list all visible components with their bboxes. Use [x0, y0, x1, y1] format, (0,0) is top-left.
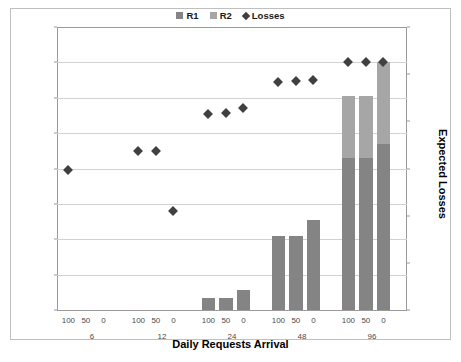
bar-segment-r1	[342, 158, 356, 310]
legend-item-losses: Losses	[243, 10, 285, 21]
bar-stack	[377, 62, 391, 310]
bar-segment-r1	[289, 236, 303, 310]
bar-stack	[342, 96, 356, 310]
legend-item-r2: R2	[210, 10, 232, 21]
x-axis-sub-label: 0	[301, 316, 325, 325]
bar-segment-r2	[342, 96, 356, 158]
y-axis-tick-mark-left	[54, 97, 57, 98]
bar-segment-r2	[359, 96, 373, 158]
legend-label-r1: R1	[186, 10, 198, 21]
y-axis-tick-mark-right	[407, 168, 410, 169]
x-axis-group-label: 48	[282, 332, 322, 341]
x-axis-sub-label: 0	[231, 316, 255, 325]
bar-stack	[237, 290, 251, 310]
y-axis-tick-mark-right	[407, 27, 410, 28]
bar-segment-r1	[307, 220, 321, 310]
y-axis-tick-mark-left	[54, 27, 57, 28]
y-axis-title-right: Expected Losses	[437, 129, 449, 219]
bar-segment-r1	[219, 298, 233, 310]
legend-label-losses: Losses	[252, 10, 285, 21]
y-axis-tick-mark-right	[407, 215, 410, 216]
bar-segment-r2	[377, 62, 391, 143]
y-axis-tick-mark-right	[407, 310, 410, 311]
y-axis-tick-mark-right	[407, 121, 410, 122]
bar-stack	[359, 96, 373, 310]
gridline	[57, 62, 407, 63]
x-axis-sub-label: 0	[91, 316, 115, 325]
x-axis-group-label: 24	[212, 332, 252, 341]
y-axis-tick-mark-left	[54, 274, 57, 275]
legend-diamond-icon	[242, 11, 250, 19]
bar-segment-r1	[359, 158, 373, 310]
gridline	[57, 27, 407, 28]
y-axis-tick-mark-left	[54, 133, 57, 134]
y-axis-tick-mark-left	[54, 239, 57, 240]
bar-segment-r1	[377, 144, 391, 310]
legend-swatch-r2	[210, 12, 217, 19]
y-axis-tick-mark-left	[54, 168, 57, 169]
bar-segment-r1	[237, 290, 251, 310]
legend-label-r2: R2	[220, 10, 232, 21]
legend-item-r1: R1	[176, 10, 198, 21]
y-axis-tick-mark-right	[407, 74, 410, 75]
bar-stack	[307, 220, 321, 310]
x-axis-sub-label: 0	[161, 316, 185, 325]
bar-segment-r1	[272, 236, 286, 310]
legend-swatch-r1	[176, 12, 183, 19]
y-axis-tick-mark-right	[407, 262, 410, 263]
chart-container: R1 R2 Losses Refused Requests per Month …	[0, 0, 461, 362]
bar-segment-r1	[202, 298, 216, 310]
chart-legend: R1 R2 Losses	[0, 10, 461, 21]
y-axis-tick-mark-left	[54, 203, 57, 204]
y-axis-tick-mark-left	[54, 310, 57, 311]
bar-stack	[219, 298, 233, 310]
x-axis-group-label: 96	[352, 332, 392, 341]
gridline	[57, 310, 407, 311]
x-axis-group-label: 6	[72, 332, 112, 341]
bar-stack	[272, 236, 286, 310]
x-axis-group-label: 12	[142, 332, 182, 341]
plot-area: 0100200300400500600700800 € 1€ 10€ 100€ …	[57, 27, 407, 310]
bar-stack	[289, 236, 303, 310]
bar-stack	[202, 298, 216, 310]
x-axis-sub-label: 0	[371, 316, 395, 325]
y-axis-tick-mark-left	[54, 62, 57, 63]
